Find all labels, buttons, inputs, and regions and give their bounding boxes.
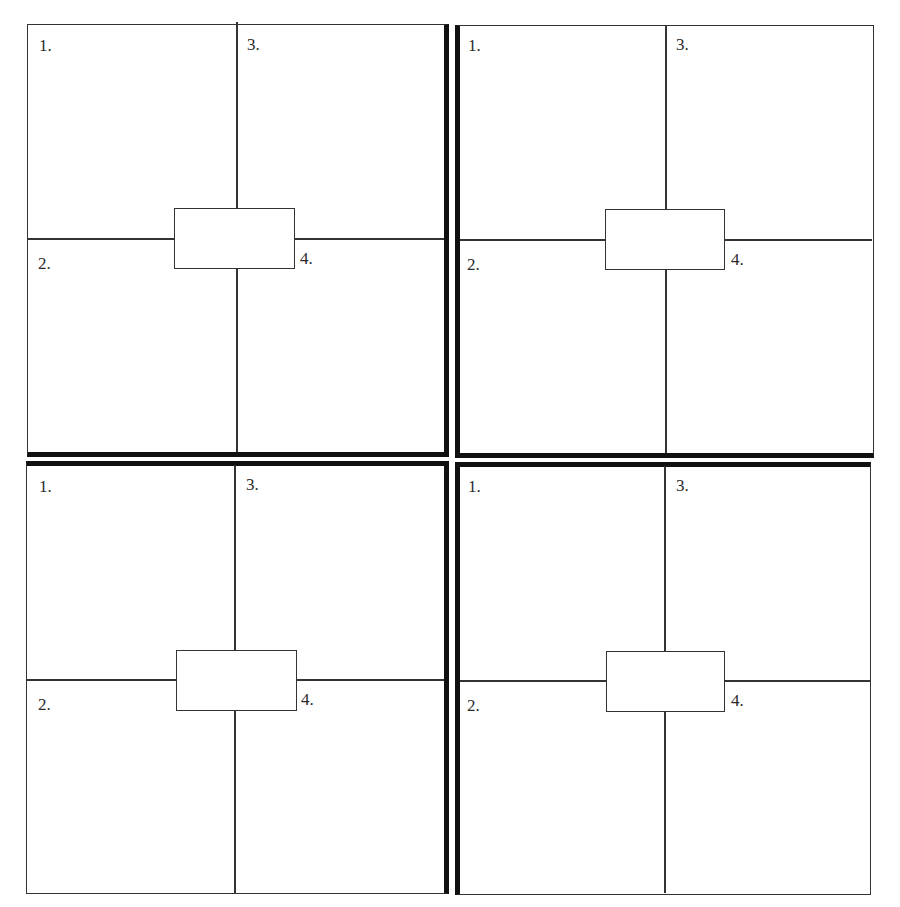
panel-2-center-box[interactable] xyxy=(605,209,725,270)
panel-4-label-4: 4. xyxy=(731,692,744,709)
panel-3-label-4: 4. xyxy=(301,691,314,708)
panel-1-label-3: 3. xyxy=(247,36,260,53)
panel-3-label-3: 3. xyxy=(246,476,259,493)
panel-1-center-box[interactable] xyxy=(174,208,295,269)
panel-3-label-1: 1. xyxy=(39,478,52,495)
panel-1-label-2: 2. xyxy=(38,255,51,272)
panel-4-label-2: 2. xyxy=(467,697,480,714)
panel-1-label-1: 1. xyxy=(39,37,52,54)
panel-2-label-2: 2. xyxy=(467,256,480,273)
panel-3-label-2: 2. xyxy=(38,696,51,713)
panel-1-label-4: 4. xyxy=(300,250,313,267)
panel-2-label-3: 3. xyxy=(676,36,689,53)
panel-2-label-4: 4. xyxy=(731,251,744,268)
panel-4-label-1: 1. xyxy=(468,478,481,495)
panel-2-label-1: 1. xyxy=(468,37,481,54)
panel-4-label-3: 3. xyxy=(676,477,689,494)
panel-4-center-box[interactable] xyxy=(606,651,725,712)
panel-3-center-box[interactable] xyxy=(176,650,297,711)
